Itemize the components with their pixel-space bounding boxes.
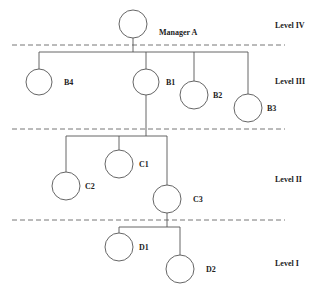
- node-c1-label: C1: [139, 160, 149, 169]
- node-b3-label: B3: [267, 104, 276, 113]
- node-d2-circle: [166, 255, 194, 283]
- level-label: Level II: [275, 175, 302, 184]
- node-d1-circle: [105, 233, 133, 261]
- level-label: Level IV: [275, 21, 305, 30]
- node-d2-label: D2: [206, 265, 216, 274]
- node-b2-circle: [180, 81, 208, 109]
- node-b4-circle: [26, 69, 52, 95]
- node-manager-a-circle: [119, 10, 147, 38]
- node-c2-label: C2: [85, 182, 95, 191]
- org-chart-canvas: Manager AB4B1B2B3C1C2C3D1D2 Level IVLeve…: [0, 0, 312, 294]
- node-b3-circle: [234, 94, 262, 122]
- level-label: Level I: [275, 259, 299, 268]
- node-b1-label: B1: [166, 78, 175, 87]
- node-b4-label: B4: [64, 78, 73, 87]
- node-c1-circle: [105, 150, 133, 178]
- node-manager-a-label: Manager A: [159, 28, 198, 37]
- node-b2-label: B2: [213, 91, 222, 100]
- node-c3-label: C3: [193, 195, 203, 204]
- level-label: Level III: [275, 77, 305, 86]
- node-c3-circle: [153, 185, 181, 213]
- node-b1-circle: [133, 69, 159, 95]
- node-c2-circle: [52, 172, 80, 200]
- node-d1-label: D1: [139, 243, 149, 252]
